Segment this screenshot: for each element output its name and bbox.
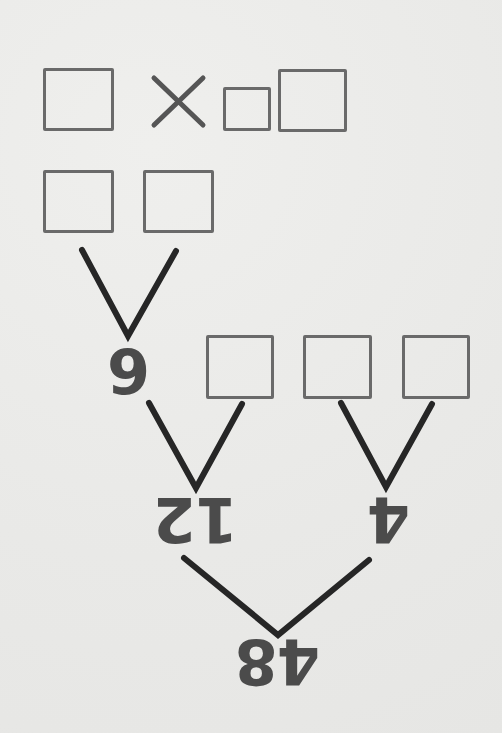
answer-box-row1-b[interactable]: [278, 69, 347, 132]
number-6: 6: [110, 343, 150, 401]
branch-top: [82, 250, 176, 336]
number-4: 4: [367, 492, 411, 550]
answer-box-row2-b[interactable]: [143, 170, 214, 233]
branch-under-6: [149, 403, 242, 488]
branch-right: [341, 403, 432, 487]
number-48: 48: [238, 634, 320, 692]
branch-bottom: [184, 558, 369, 635]
factor-tree-worksheet: 6 12 4 48: [0, 0, 502, 733]
answer-box-row2-a[interactable]: [43, 170, 114, 233]
answer-box-row1-exponent[interactable]: [223, 87, 271, 131]
answer-box-row3-c[interactable]: [402, 335, 470, 399]
times-icon: [154, 78, 203, 125]
answer-box-row1-a[interactable]: [43, 68, 114, 131]
answer-box-row3-b[interactable]: [303, 335, 372, 399]
answer-box-row3-a[interactable]: [206, 335, 274, 399]
number-12: 12: [156, 492, 238, 550]
